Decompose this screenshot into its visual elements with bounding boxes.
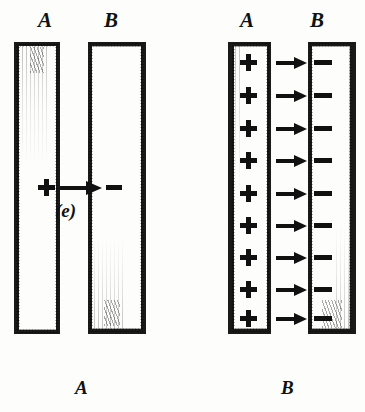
- minus-charge-icon: [106, 185, 122, 190]
- plus-charge-icon: [240, 185, 257, 202]
- top-label-panel-left-a: A: [38, 10, 52, 31]
- transfer-arrow-icon: [276, 90, 308, 102]
- top-label-panel-right-b: B: [310, 10, 324, 31]
- plus-charge-icon: [240, 120, 257, 137]
- minus-charge-icon: [314, 191, 332, 196]
- top-label-panel-left-b: B: [104, 10, 118, 31]
- plus-charge-icon: [240, 310, 257, 327]
- top-label-panel-right-a: A: [240, 10, 254, 31]
- plus-charge-icon: [240, 249, 257, 266]
- transfer-arrow-icon: [276, 252, 308, 264]
- transfer-arrow-icon: [60, 181, 102, 195]
- transfer-arrow-icon: [276, 123, 308, 135]
- minus-charge-icon: [314, 287, 332, 292]
- transfer-arrow-icon: [276, 313, 308, 325]
- minus-charge-icon: [314, 223, 332, 228]
- plus-charge-icon: [240, 217, 257, 234]
- bottom-label-b: B: [281, 378, 294, 397]
- minus-charge-icon: [314, 93, 332, 98]
- bottom-label-a: A: [75, 378, 88, 397]
- minus-charge-icon: [314, 60, 332, 65]
- minus-charge-icon: [314, 158, 332, 163]
- minus-charge-icon: [314, 126, 332, 131]
- transfer-arrow-icon: [276, 188, 308, 200]
- plus-charge-icon: [38, 179, 55, 196]
- transfer-arrow-icon: [276, 155, 308, 167]
- figure-canvas: A B A B (e): [0, 0, 365, 412]
- plus-charge-icon: [240, 281, 257, 298]
- plus-charge-icon: [240, 152, 257, 169]
- plus-charge-icon: [240, 87, 257, 104]
- minus-charge-icon: [314, 316, 332, 321]
- transfer-arrow-icon: [276, 220, 308, 232]
- panel-caption-e: (e): [55, 201, 76, 220]
- plus-charge-icon: [240, 54, 257, 71]
- minus-charge-icon: [314, 255, 332, 260]
- transfer-arrow-icon: [276, 284, 308, 296]
- transfer-arrow-icon: [276, 57, 308, 69]
